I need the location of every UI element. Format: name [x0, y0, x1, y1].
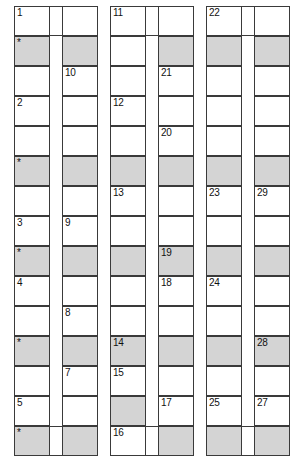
puzzle-cell[interactable] — [62, 126, 98, 156]
puzzle-cell[interactable] — [206, 366, 242, 396]
puzzle-cell[interactable]: 13 — [110, 186, 146, 216]
puzzle-cell[interactable] — [206, 336, 242, 366]
puzzle-cell[interactable]: 7 — [62, 366, 98, 396]
puzzle-cell[interactable]: * — [14, 426, 50, 456]
cell-number: 20 — [161, 127, 172, 139]
puzzle-cell[interactable] — [254, 156, 290, 186]
puzzle-cell[interactable] — [206, 306, 242, 336]
cell-number: 5 — [17, 397, 22, 409]
puzzle-cell[interactable] — [110, 216, 146, 246]
puzzle-cell[interactable]: 5 — [14, 396, 50, 426]
cell-number: 19 — [161, 247, 172, 259]
puzzle-cell[interactable] — [62, 186, 98, 216]
puzzle-cell[interactable] — [158, 96, 194, 126]
puzzle-cell[interactable]: 10 — [62, 66, 98, 96]
puzzle-cell[interactable] — [62, 336, 98, 366]
puzzle-cell[interactable]: 9 — [62, 216, 98, 246]
puzzle-cell[interactable]: * — [14, 246, 50, 276]
puzzle-cell[interactable]: 15 — [110, 366, 146, 396]
puzzle-cell[interactable] — [206, 216, 242, 246]
puzzle-cell[interactable] — [110, 156, 146, 186]
puzzle-cell[interactable] — [206, 126, 242, 156]
puzzle-cell[interactable]: 2 — [14, 96, 50, 126]
puzzle-cell[interactable]: 23 — [206, 186, 242, 216]
puzzle-cell[interactable] — [158, 156, 194, 186]
puzzle-cell[interactable] — [14, 306, 50, 336]
puzzle-cell[interactable] — [254, 246, 290, 276]
puzzle-cell[interactable] — [158, 186, 194, 216]
puzzle-cell[interactable] — [110, 246, 146, 276]
puzzle-cell[interactable]: 1 — [14, 6, 50, 36]
cell-number: 24 — [209, 277, 220, 289]
puzzle-cell[interactable]: 20 — [158, 126, 194, 156]
puzzle-cell[interactable] — [254, 216, 290, 246]
puzzle-cell[interactable]: 4 — [14, 276, 50, 306]
puzzle-cell[interactable] — [158, 366, 194, 396]
puzzle-cell[interactable] — [62, 36, 98, 66]
puzzle-cell[interactable] — [62, 426, 98, 456]
cell-number: 8 — [65, 307, 70, 319]
puzzle-cell[interactable] — [110, 276, 146, 306]
puzzle-cell[interactable] — [206, 66, 242, 96]
puzzle-cell[interactable]: 21 — [158, 66, 194, 96]
puzzle-cell[interactable]: 18 — [158, 276, 194, 306]
puzzle-cell[interactable]: 24 — [206, 276, 242, 306]
puzzle-cell[interactable] — [110, 126, 146, 156]
cell-number: 2 — [17, 97, 22, 109]
puzzle-cell[interactable] — [206, 96, 242, 126]
puzzle-cell[interactable]: 25 — [206, 396, 242, 426]
puzzle-cell[interactable] — [206, 426, 242, 456]
puzzle-cell[interactable]: 17 — [158, 396, 194, 426]
puzzle-cell[interactable]: 11 — [110, 6, 146, 36]
puzzle-cell[interactable] — [110, 306, 146, 336]
puzzle-cell[interactable]: 29 — [254, 186, 290, 216]
puzzle-cell[interactable] — [254, 36, 290, 66]
puzzle-cell[interactable] — [62, 396, 98, 426]
puzzle-cell[interactable] — [254, 306, 290, 336]
puzzle-cell[interactable] — [158, 216, 194, 246]
puzzle-cell[interactable] — [158, 6, 194, 36]
cell-number: 25 — [209, 397, 220, 409]
puzzle-cell[interactable]: 14 — [110, 336, 146, 366]
puzzle-cell[interactable]: 28 — [254, 336, 290, 366]
puzzle-cell[interactable] — [62, 246, 98, 276]
puzzle-cell[interactable] — [254, 366, 290, 396]
puzzle-cell[interactable]: 19 — [158, 246, 194, 276]
puzzle-cell[interactable] — [110, 396, 146, 426]
puzzle-cell[interactable] — [110, 36, 146, 66]
puzzle-cell[interactable] — [62, 276, 98, 306]
cell-number: 28 — [257, 337, 268, 349]
puzzle-cell[interactable] — [254, 96, 290, 126]
puzzle-cell[interactable]: 16 — [110, 426, 146, 456]
puzzle-cell[interactable]: 22 — [206, 6, 242, 36]
puzzle-cell[interactable] — [62, 156, 98, 186]
cell-number: 3 — [17, 217, 22, 229]
puzzle-cell[interactable] — [14, 126, 50, 156]
puzzle-cell[interactable]: * — [14, 336, 50, 366]
puzzle-cell[interactable] — [158, 336, 194, 366]
puzzle-cell[interactable] — [14, 66, 50, 96]
puzzle-cell[interactable]: 3 — [14, 216, 50, 246]
puzzle-cell[interactable] — [254, 126, 290, 156]
puzzle-cell[interactable] — [254, 426, 290, 456]
puzzle-cell[interactable] — [62, 6, 98, 36]
puzzle-cell[interactable] — [158, 426, 194, 456]
puzzle-cell[interactable] — [206, 246, 242, 276]
puzzle-cell[interactable]: * — [14, 156, 50, 186]
puzzle-cell[interactable] — [62, 96, 98, 126]
puzzle-cell[interactable] — [254, 276, 290, 306]
puzzle-cell[interactable]: 12 — [110, 96, 146, 126]
puzzle-cell[interactable] — [158, 306, 194, 336]
puzzle-cell[interactable] — [206, 156, 242, 186]
puzzle-cell[interactable] — [14, 186, 50, 216]
puzzle-cell[interactable] — [206, 36, 242, 66]
cell-number: 7 — [65, 367, 70, 379]
puzzle-cell[interactable]: 27 — [254, 396, 290, 426]
puzzle-cell[interactable] — [158, 36, 194, 66]
puzzle-cell[interactable] — [254, 66, 290, 96]
puzzle-cell[interactable]: 8 — [62, 306, 98, 336]
puzzle-cell[interactable]: * — [14, 36, 50, 66]
puzzle-cell[interactable] — [110, 66, 146, 96]
puzzle-cell[interactable] — [254, 6, 290, 36]
puzzle-cell[interactable] — [14, 366, 50, 396]
